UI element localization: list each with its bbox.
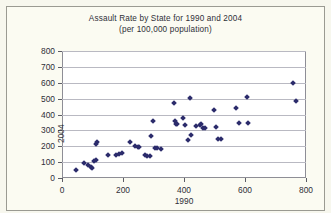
gridline — [62, 83, 306, 84]
y-tick-mark — [58, 162, 62, 163]
y-tick-label: 300 — [41, 125, 55, 135]
y-tick-label: 100 — [41, 157, 55, 167]
gridline — [62, 146, 306, 147]
gridline — [62, 162, 306, 163]
y-tick-label: 500 — [41, 94, 55, 104]
y-tick-mark — [58, 83, 62, 84]
x-tick-mark — [184, 178, 185, 182]
x-tick-label: 200 — [116, 185, 130, 195]
y-tick-label: 700 — [41, 62, 55, 72]
y-tick-label: 200 — [41, 141, 55, 151]
y-axis-title: 2004 — [56, 124, 66, 143]
x-tick-label: 800 — [299, 185, 313, 195]
chart-title: Assault Rate by State for 1990 and 2004 — [0, 13, 331, 24]
x-tick-label: 0 — [60, 185, 65, 195]
gridline — [62, 51, 306, 52]
plot-wrapper: 0100200300400500600700800 0200400600800 … — [62, 51, 306, 178]
y-tick-mark — [58, 51, 62, 52]
x-tick-mark — [306, 178, 307, 182]
figure-bottom-margin — [0, 213, 331, 224]
y-tick-label: 800 — [41, 46, 55, 56]
x-tick-mark — [62, 178, 63, 182]
x-tick-mark — [245, 178, 246, 182]
chart-subtitle: (per 100,000 population) — [0, 24, 331, 35]
x-tick-label: 400 — [177, 185, 191, 195]
chart-figure: Assault Rate by State for 1990 and 2004 … — [0, 0, 331, 224]
y-tick-label: 0 — [50, 173, 55, 183]
y-tick-mark — [58, 115, 62, 116]
chart-title-block: Assault Rate by State for 1990 and 2004 … — [0, 13, 331, 35]
gridline — [62, 99, 306, 100]
y-tick-mark — [58, 67, 62, 68]
y-tick-label: 600 — [41, 78, 55, 88]
gridline — [62, 67, 306, 68]
y-tick-mark — [58, 146, 62, 147]
gridline — [62, 130, 306, 131]
x-tick-label: 600 — [238, 185, 252, 195]
x-tick-mark — [123, 178, 124, 182]
y-tick-label: 400 — [41, 110, 55, 120]
x-axis-title: 1990 — [62, 196, 306, 206]
y-tick-mark — [58, 99, 62, 100]
